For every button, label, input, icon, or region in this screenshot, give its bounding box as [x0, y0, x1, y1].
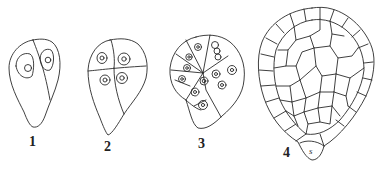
panel-3-nucleus	[214, 48, 220, 54]
panel-1-nucleus-right	[45, 57, 51, 63]
panel-2-cell-1	[97, 53, 107, 64]
panel-2-nucleus-1	[100, 56, 104, 60]
panel-3-nucleus	[186, 54, 192, 60]
panel-1-nucleus-left	[25, 65, 32, 72]
panel-3-nucleus	[195, 44, 202, 51]
panel-1-two-cell-embryo: 1	[9, 39, 60, 149]
panel-3-nucleolus	[197, 46, 200, 49]
panel-3-nucleus	[191, 88, 199, 96]
panel-4-label: 4	[283, 145, 290, 160]
panel-2-nucleus-4	[120, 76, 124, 80]
panel-3-wall	[175, 80, 190, 86]
panel-3-nucleus	[212, 70, 220, 78]
panel-3-nucleus	[184, 65, 191, 72]
panel-3-nucleus	[215, 54, 221, 60]
panel-3-nucleolus	[215, 73, 218, 76]
embryo-diagram: 1 2	[0, 0, 382, 169]
panel-3-nucleolus	[221, 84, 224, 87]
panel-3-nucleus	[179, 76, 186, 83]
panel-2-vertical-wall-top	[111, 40, 114, 68]
panel-3-nucleolus	[188, 56, 190, 58]
panel-4-globular-embryo: s 4	[258, 7, 374, 160]
panel-3-wall	[203, 35, 210, 73]
panel-3-nucleus	[212, 42, 219, 49]
panel-1-cell-right	[40, 49, 54, 70]
panel-3-nucleus	[228, 66, 237, 75]
panel-2-vertical-wall-bottom	[114, 68, 124, 114]
panel-3-nucleolus	[186, 67, 189, 70]
panel-3-label: 3	[198, 136, 205, 151]
panel-3-nucleus	[218, 81, 226, 89]
panel-1-label: 1	[29, 134, 36, 149]
panel-2-label: 2	[104, 139, 111, 154]
panel-3-multicellular-embryo: 3	[170, 35, 244, 151]
panel-4-inner-cells	[274, 19, 364, 134]
panel-3-nucleolus	[201, 103, 204, 106]
panel-2-nucleus-2	[122, 57, 126, 61]
panel-3-nucleolus	[181, 78, 184, 81]
panel-2-outline	[88, 39, 147, 135]
suspensor-label: s	[309, 146, 313, 156]
panel-2-horizontal-wall	[88, 66, 146, 71]
panel-3-nucleolus	[194, 91, 197, 94]
panel-2-cell-3	[100, 75, 110, 85]
panel-3-nucleolus	[230, 68, 233, 71]
panel-2-cell-2	[118, 53, 130, 65]
panel-2-cell-4	[117, 73, 128, 84]
panel-2-four-cell-embryo: 2	[88, 39, 147, 154]
panel-2-nucleus-3	[103, 78, 107, 82]
panel-4-radial-walls	[259, 8, 373, 146]
